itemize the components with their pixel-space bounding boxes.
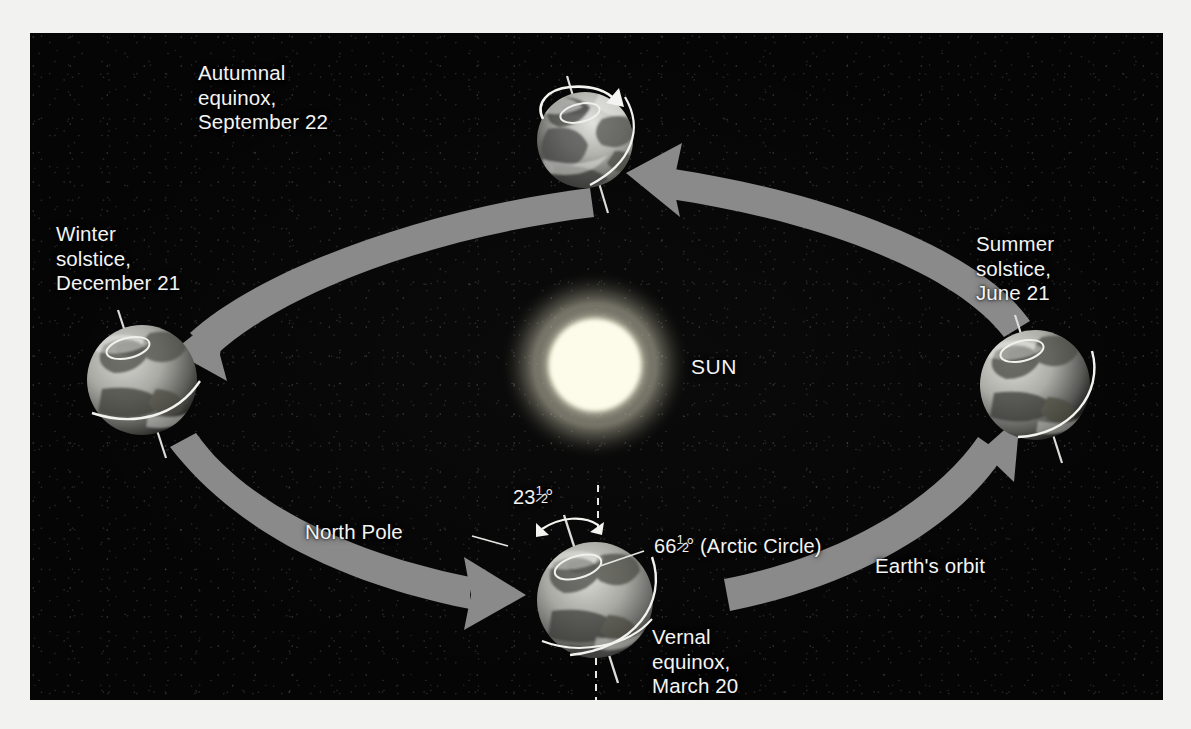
fraction-one-half: 1⁄2 <box>535 485 545 504</box>
starfield-background: Autumnal equinox, September 22 Winter so… <box>30 33 1163 700</box>
orbit-arrow-to-summer <box>724 437 1004 611</box>
label-arctic-circle: 661⁄2° (Arctic Circle) <box>654 534 822 559</box>
label-winter-solstice: Winter solstice, December 21 <box>56 222 180 296</box>
label-north-pole: North Pole <box>305 520 403 545</box>
orbit-arrowhead-vernal <box>464 557 526 630</box>
axial-tilt-arc-arrow <box>542 519 598 529</box>
label-earths-orbit: Earth's orbit <box>875 554 985 579</box>
diagram-page: Autumnal equinox, September 22 Winter so… <box>0 0 1191 729</box>
label-summer-solstice: Summer solstice, June 21 <box>976 232 1054 306</box>
earth-winter-solstice <box>87 310 200 458</box>
label-autumnal-equinox: Autumnal equinox, September 22 <box>198 61 328 135</box>
north-pole-leader <box>472 536 508 546</box>
label-vernal-equinox: Vernal equinox, March 20 <box>652 625 738 699</box>
orbit-arrowhead-autumnal <box>626 143 682 217</box>
label-axial-tilt: 231⁄2° <box>513 485 553 510</box>
fraction-one-half: 1⁄2 <box>676 534 686 553</box>
label-sun: SUN <box>691 355 737 380</box>
sun-body <box>499 269 691 461</box>
